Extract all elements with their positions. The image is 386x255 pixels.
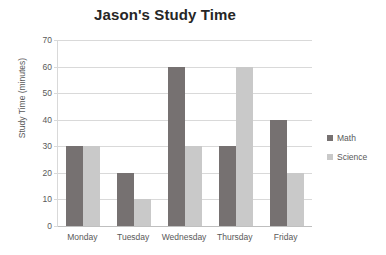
bar-group [66,40,100,226]
y-tick-label: 40 [43,115,52,125]
x-axis-labels: MondayTuesdayWednesdayThursdayFriday [57,232,312,248]
bar-monday-science[interactable] [83,146,100,226]
bar-thursday-math[interactable] [219,146,236,226]
y-tick-mark [54,226,58,227]
bar-tuesday-science[interactable] [134,199,151,226]
bar-wednesday-math[interactable] [168,67,185,226]
bar-friday-science[interactable] [287,173,304,226]
legend-label: Science [337,152,367,162]
x-tick-label-friday: Friday [274,232,298,242]
y-tick-label: 20 [43,168,52,178]
bar-group [168,40,202,226]
x-tick-label-monday: Monday [67,232,97,242]
bars-layer [58,40,312,226]
legend-item-science[interactable]: Science [327,152,385,162]
y-tick-label: 60 [43,62,52,72]
y-tick-label: 70 [43,35,52,45]
bar-group [219,40,253,226]
x-tick-label-tuesday: Tuesday [117,232,149,242]
y-tick-label: 10 [43,194,52,204]
bar-chart: Jason's Study Time Study Time (minutes) … [0,0,386,255]
y-tick-label: 30 [43,141,52,151]
chart-title: Jason's Study Time [0,6,330,23]
y-axis-title: Study Time (minutes) [17,38,27,158]
bar-tuesday-math[interactable] [117,173,134,226]
bar-group [270,40,304,226]
gridline [58,226,312,227]
y-tick-label: 50 [43,88,52,98]
legend-swatch-icon [327,135,333,141]
x-tick-label-wednesday: Wednesday [162,232,207,242]
bar-wednesday-science[interactable] [185,146,202,226]
legend-label: Math [337,133,356,143]
bar-thursday-science[interactable] [236,67,253,226]
legend-swatch-icon [327,154,333,160]
plot-area: 010203040506070 [57,40,312,226]
bar-friday-math[interactable] [270,120,287,226]
x-tick-label-thursday: Thursday [217,232,252,242]
legend-item-math[interactable]: Math [327,133,385,143]
chart-legend: MathScience [327,133,385,171]
y-tick-label: 0 [47,221,52,231]
bar-monday-math[interactable] [66,146,83,226]
bar-group [117,40,151,226]
